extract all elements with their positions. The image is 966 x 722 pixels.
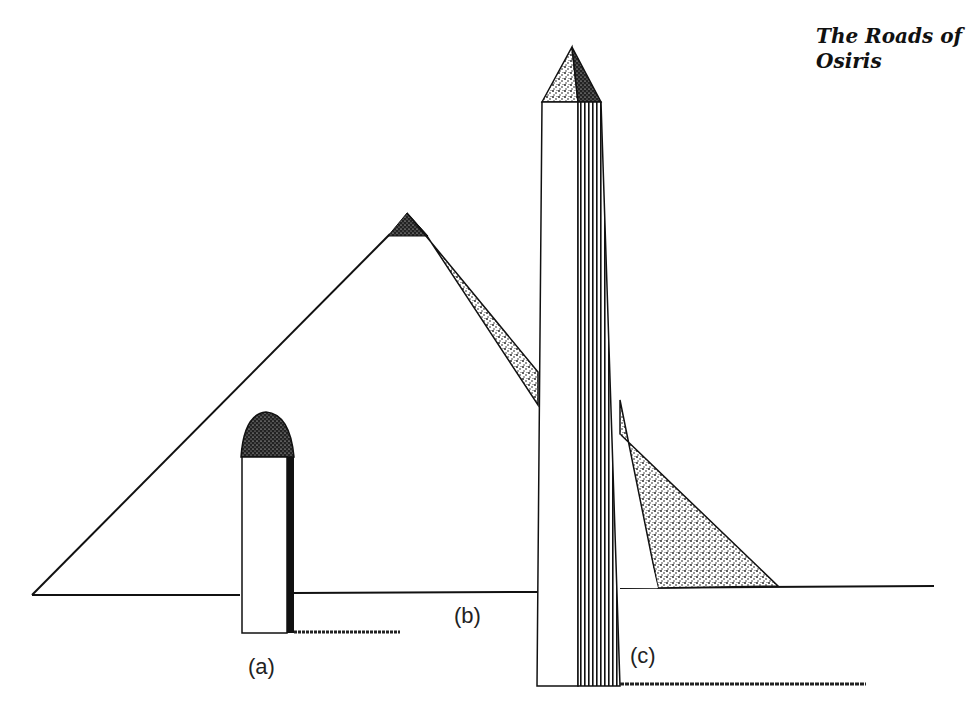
label-c: (c) (630, 643, 656, 669)
figure-title: The Roads of Osiris (816, 24, 966, 74)
illustration-canvas (0, 0, 966, 722)
pillar-a (241, 412, 400, 633)
ground-line (32, 586, 934, 595)
pyramid-b (32, 213, 778, 595)
label-a: (a) (248, 654, 275, 680)
label-b: (b) (454, 603, 481, 629)
title-line-1: The Roads of (816, 24, 966, 49)
title-line-2: Osiris (816, 49, 966, 74)
obelisk-c (537, 47, 866, 686)
